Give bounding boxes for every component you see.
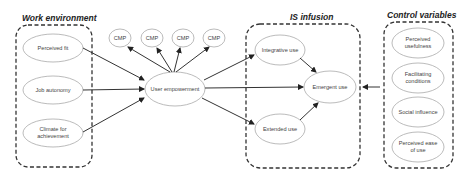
arrow-extended-emergent (300, 103, 318, 120)
is-infusion-title: IS infusion (290, 12, 333, 22)
perceived-usefulness-label: Perceived usefulness (396, 35, 440, 51)
user-empowerment-label: User empowerment (150, 81, 200, 97)
extended-use-label: Extended use (260, 121, 300, 137)
social-influence-label: Social influence (396, 104, 440, 120)
arrow-emp-emergent (205, 87, 303, 88)
arrow-emp-cmp4 (176, 47, 209, 72)
cmp-label-2: CMP (142, 34, 162, 42)
perceived-ease-label: Perceived ease of use (396, 139, 440, 155)
control-variables-title: Control variables (387, 10, 456, 20)
cmp-label-1: CMP (110, 34, 130, 42)
cmp-label-4: CMP (204, 34, 224, 42)
cmp-label-3: CMP (173, 34, 193, 42)
facilitating-conditions-label: Facilitating conditions (396, 70, 440, 86)
work-environment-title: Work environment (22, 13, 96, 23)
arrow-autonomy-empowerment (83, 89, 144, 90)
arrow-emp-cmp3 (174, 48, 180, 72)
job-autonomy-label: Job autonomy (35, 82, 71, 98)
arrow-integrative-emergent (300, 58, 316, 72)
integrative-use-label: Integrative use (260, 42, 300, 58)
emergent-use-label: Emergent use (310, 79, 350, 95)
climate-label: Climate for achievement (28, 125, 78, 141)
perceived-fit-label: Perceived fit (28, 42, 78, 54)
